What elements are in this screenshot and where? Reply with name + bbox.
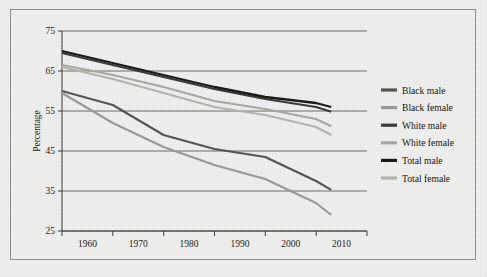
y-axis-tick-label: 65: [46, 66, 56, 76]
y-axis-tick-label: 75: [46, 26, 56, 36]
figure-container: 253545556575196019701980199020002010Perc…: [0, 0, 487, 277]
legend-label-total-female: Total female: [402, 173, 450, 184]
series-line-total-male: [62, 51, 331, 107]
legend-label-black-female: Black female: [402, 102, 453, 113]
y-axis-tick-label: 45: [46, 146, 56, 156]
x-axis-tick-label: 1980: [180, 239, 199, 249]
legend-label-total-male: Total male: [402, 155, 443, 166]
legend-label-white-male: White male: [402, 120, 446, 131]
y-axis-tick-label: 35: [46, 186, 56, 196]
x-axis-tick-label: 1990: [230, 239, 249, 249]
legend-label-black-male: Black male: [402, 85, 445, 96]
x-axis-tick-label: 1970: [129, 239, 148, 249]
series-line-black-male: [62, 91, 331, 190]
legend-label-white-female: White female: [402, 137, 454, 148]
x-axis-tick-label: 2000: [281, 239, 300, 249]
x-axis-tick-label: 2010: [332, 239, 351, 249]
y-axis-title: Percentage: [32, 110, 42, 152]
line-chart: 253545556575196019701980199020002010Perc…: [0, 0, 487, 277]
x-axis-tick-label: 1960: [78, 239, 97, 249]
y-axis-tick-label: 55: [46, 106, 56, 116]
y-axis-tick-label: 25: [46, 226, 56, 236]
